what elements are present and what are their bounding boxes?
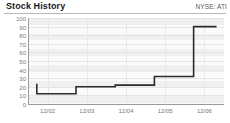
x-tick-4: 12/06 <box>197 108 212 114</box>
x-tick-3: 12/05 <box>158 108 173 114</box>
y-tick-30: 30 <box>2 76 26 82</box>
y-tick-40: 40 <box>2 68 26 74</box>
x-axis-line <box>28 104 224 105</box>
y-tick-100: 100 <box>2 16 26 22</box>
stock-price-series <box>28 18 224 104</box>
step-line <box>37 27 217 94</box>
x-tick-0: 12/02 <box>40 108 55 114</box>
ticker-symbol-label: NYSE: ATI <box>196 3 227 10</box>
page-title: Stock History <box>6 1 65 11</box>
widget-header: Stock History NYSE: ATI <box>0 0 230 15</box>
y-tick-90: 90 <box>2 25 26 31</box>
header-divider <box>4 13 226 14</box>
y-tick-80: 80 <box>2 33 26 39</box>
y-tick-10: 10 <box>2 93 26 99</box>
stock-history-widget: Stock History NYSE: ATI 100 90 80 70 60 … <box>0 0 230 123</box>
series-svg <box>28 18 224 104</box>
y-tick-70: 70 <box>2 42 26 48</box>
chart-area: 100 90 80 70 60 50 40 30 20 10 0 <box>0 15 230 123</box>
y-tick-20: 20 <box>2 85 26 91</box>
y-axis-labels: 100 90 80 70 60 50 40 30 20 10 0 <box>0 18 26 104</box>
y-tick-50: 50 <box>2 59 26 65</box>
y-tick-60: 60 <box>2 50 26 56</box>
x-tick-1: 12/03 <box>79 108 94 114</box>
x-tick-2: 12/04 <box>118 108 133 114</box>
y-tick-0: 0 <box>2 102 26 108</box>
